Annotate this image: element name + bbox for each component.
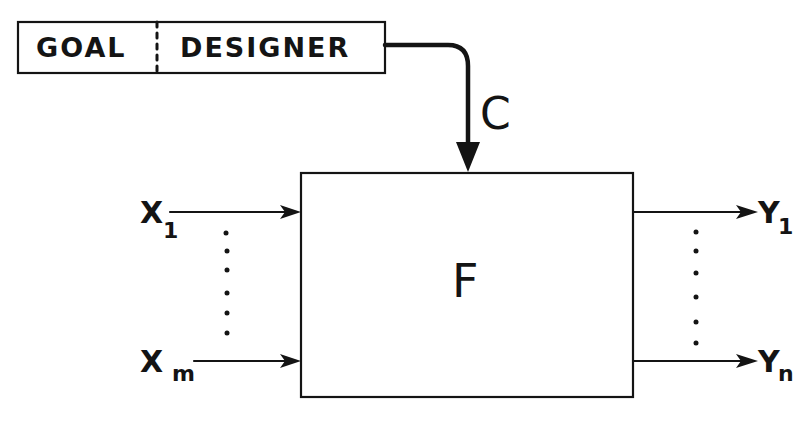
output-1-symbol: Y: [758, 198, 780, 228]
diagram-lines: [0, 0, 806, 446]
control-wire: [385, 45, 468, 150]
input-m-symbol: X: [140, 347, 163, 377]
input-1-symbol: X: [140, 198, 163, 228]
control-signal-label: C: [480, 92, 511, 136]
output-ellipsis-dots: [694, 230, 699, 346]
system-block-label: F: [452, 258, 478, 304]
control-arrowhead-icon: [456, 142, 480, 172]
input-1-subscript: 1: [163, 220, 178, 242]
output-1-subscript: 1: [778, 216, 793, 238]
input-m-subscript: m: [172, 363, 195, 385]
input-ellipsis-dots: [224, 231, 230, 336]
designer-label: DESIGNER: [180, 34, 350, 61]
output-n-symbol: Y: [758, 347, 780, 377]
output-n-subscript: n: [778, 363, 794, 385]
goal-label: GOAL: [36, 34, 127, 61]
